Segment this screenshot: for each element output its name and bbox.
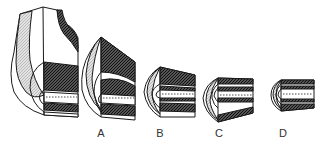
stage-0-shape [11,7,78,117]
stage-a-shape [82,37,135,120]
stage-d-shape [271,80,314,111]
label-b: B [156,127,163,139]
label-a: A [97,127,104,139]
diagram-canvas [0,0,329,148]
label-c: C [215,127,223,139]
stage-c-shape [203,78,253,122]
stage-b-shape [144,67,195,117]
label-d: D [279,127,287,139]
